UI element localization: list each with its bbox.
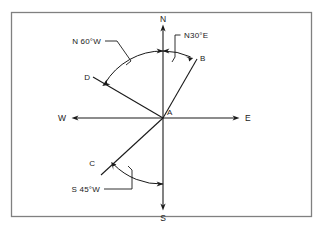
figure-border (12, 13, 312, 217)
label-point-a: A (167, 108, 173, 117)
label-south: S (160, 213, 166, 223)
label-point-b: B (200, 54, 205, 63)
label-west: W (58, 113, 66, 123)
label-bearing-s45w: S 45°W (72, 185, 101, 194)
label-north: N (160, 14, 166, 24)
label-bearing-n30e: N30°E (184, 31, 208, 40)
label-bearing-n60w: N 60°W (72, 37, 101, 46)
label-east: E (245, 113, 251, 123)
label-point-d: D (84, 73, 90, 82)
figure-canvas: N S W E A B C D N30°E N 60°W S 45°W (0, 0, 323, 229)
label-point-c: C (89, 159, 95, 168)
